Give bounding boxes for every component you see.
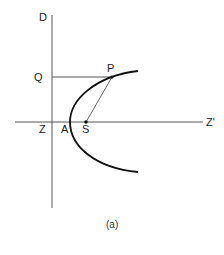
label-z-prime: Z' bbox=[206, 116, 215, 128]
label-a: A bbox=[61, 123, 69, 135]
figure-caption: (a) bbox=[106, 219, 118, 230]
label-s: S bbox=[82, 123, 89, 135]
label-z: Z bbox=[39, 123, 46, 135]
point-p-marker bbox=[110, 75, 113, 78]
parabola-diagram: D Q Z A S P Z' (a) bbox=[0, 0, 224, 255]
label-d: D bbox=[39, 11, 47, 23]
label-p: P bbox=[107, 62, 114, 74]
label-q: Q bbox=[34, 71, 43, 83]
sp-segment bbox=[86, 77, 112, 122]
